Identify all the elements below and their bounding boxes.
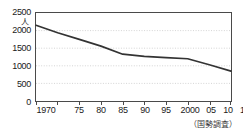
x-tick-label: 15年 [240, 105, 243, 115]
x-tick-label: 10 [223, 105, 232, 115]
data-line-series [36, 13, 231, 101]
y-tick-label: 2500 [12, 8, 31, 17]
y-axis-labels: 2500 人 2000 1500 1000 500 0 [0, 0, 33, 114]
x-tick-label: 95 [161, 105, 170, 115]
x-tick-label: 90 [140, 105, 149, 115]
y-tick-label: 2000 [12, 26, 31, 35]
plot-area [35, 12, 232, 102]
y-tick-label: 500 [17, 80, 31, 89]
source-note: （国勢調査） [189, 120, 237, 129]
y-tick-label: 1500 [12, 44, 31, 53]
x-tick-label: 75 [74, 105, 83, 115]
x-axis-labels: 1970 75 80 85 90 95 2000 05 10 15年 [0, 105, 243, 119]
line-chart-figure: 2500 人 2000 1500 1000 500 0 1970 [0, 0, 243, 134]
x-tick-label: 05 [206, 105, 215, 115]
y-tick-label: 1000 [12, 62, 31, 71]
x-tick-label: 1970 [37, 105, 56, 115]
x-tick-label: 85 [118, 105, 127, 115]
x-tick-label: 80 [96, 105, 105, 115]
x-tick-label: 2000 [181, 105, 200, 115]
